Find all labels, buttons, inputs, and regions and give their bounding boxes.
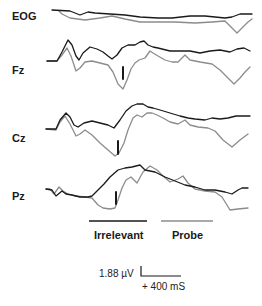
cz-probe-trace [46,113,248,156]
legend-irrelevant-label: Irrelevant [94,229,144,241]
scale-bar [141,266,181,276]
erp-waveforms [0,0,262,306]
eog-probe-trace [59,11,252,33]
cz-irrelevant-trace [46,104,250,129]
scale-time-label: + 400 mS [142,281,185,292]
scale-voltage-label: 1.88 µV [99,268,134,279]
eog-irrelevant-trace [52,10,252,18]
fz-probe-trace [47,48,250,89]
pz-probe-trace [46,166,248,210]
fz-irrelevant-trace [47,40,250,61]
pz-irrelevant-trace [46,165,248,197]
legend-probe-label: Probe [172,229,203,241]
